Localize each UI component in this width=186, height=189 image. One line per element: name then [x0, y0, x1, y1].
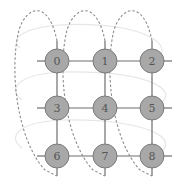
- node-label: 4: [102, 102, 109, 115]
- grid-node-8: 8: [140, 144, 164, 168]
- grid-node-7: 7: [93, 144, 117, 168]
- node-label: 2: [149, 55, 156, 68]
- torus-diagram: 012345678: [0, 0, 186, 189]
- grid-node-0: 0: [45, 49, 69, 73]
- grid-node-5: 5: [140, 96, 164, 120]
- grid-nodes: 012345678: [45, 49, 164, 168]
- node-label: 5: [149, 102, 156, 115]
- vertical-wrap-arcs: [15, 11, 152, 176]
- grid-node-1: 1: [93, 49, 117, 73]
- node-label: 8: [149, 150, 156, 163]
- grid-node-3: 3: [45, 96, 69, 120]
- node-label: 1: [102, 55, 109, 68]
- grid-node-6: 6: [45, 144, 69, 168]
- grid-node-4: 4: [93, 96, 117, 120]
- horizontal-wrap-curves: [16, 24, 166, 156]
- node-label: 7: [102, 150, 109, 163]
- node-label: 0: [54, 55, 61, 68]
- grid-node-2: 2: [140, 49, 164, 73]
- node-label: 6: [54, 150, 61, 163]
- node-label: 3: [54, 102, 61, 115]
